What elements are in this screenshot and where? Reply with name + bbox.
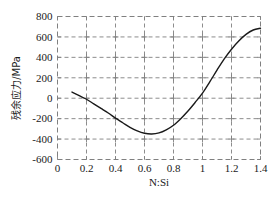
x-tick-label: 0 bbox=[55, 162, 61, 174]
x-tick-label: 1.4 bbox=[254, 162, 268, 174]
y-tick-label: 400 bbox=[36, 51, 53, 63]
y-tick-label: 600 bbox=[36, 31, 53, 43]
y-tick-label: 200 bbox=[36, 72, 53, 84]
x-tick-label: 0.4 bbox=[109, 162, 123, 174]
x-tick-label: 0.8 bbox=[167, 162, 181, 174]
x-tick-label: 0.2 bbox=[80, 162, 94, 174]
y-tick-label: 800 bbox=[36, 10, 53, 22]
residual-stress-line-chart: 00.20.40.60.811.21.4 -600-400-2000200400… bbox=[0, 0, 275, 198]
x-tick-label: 1.2 bbox=[225, 162, 239, 174]
y-tick-label: -200 bbox=[32, 112, 53, 124]
x-tick-label: 1 bbox=[200, 162, 206, 174]
y-tick-label: -400 bbox=[32, 133, 53, 145]
y-tick-label: -600 bbox=[32, 153, 53, 165]
x-axis-title: N:Si bbox=[149, 176, 169, 188]
y-tick-label: 0 bbox=[47, 92, 53, 104]
y-axis-title: 残余应力/MPa bbox=[10, 56, 22, 120]
x-tick-label: 0.6 bbox=[138, 162, 152, 174]
chart-figure: 00.20.40.60.811.21.4 -600-400-2000200400… bbox=[0, 0, 275, 198]
